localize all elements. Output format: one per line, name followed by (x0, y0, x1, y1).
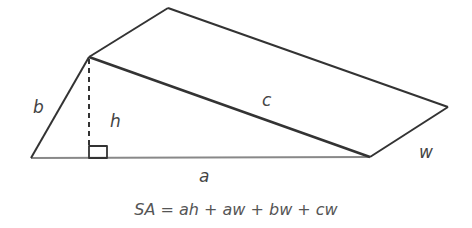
right-angle-marker (89, 146, 107, 158)
surface-area-formula: SA = ah + aw + bw + cw (0, 200, 472, 219)
label-b: b (33, 97, 44, 117)
label-a: a (199, 166, 209, 186)
edge-a (31, 157, 370, 158)
edge-top-left (89, 8, 168, 57)
label-w: w (419, 142, 433, 162)
edge-top (168, 8, 448, 107)
prism-diagram: b h c a w (0, 0, 472, 228)
label-h: h (110, 111, 121, 131)
edge-w (370, 107, 448, 157)
label-c: c (262, 90, 272, 110)
edge-c (89, 57, 370, 157)
